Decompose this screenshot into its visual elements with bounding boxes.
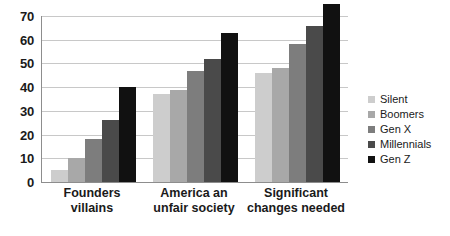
chart-legend: SilentBoomersGen XMillennialsGen Z	[368, 92, 448, 167]
x-axis-category-label-line: Significant	[246, 186, 346, 201]
legend-swatch-icon	[368, 156, 375, 163]
bar	[102, 120, 119, 182]
y-axis-tick-label: 40	[20, 81, 34, 94]
bar-group	[153, 16, 238, 182]
bar	[187, 71, 204, 182]
y-axis-tick-labels: 010203040506070	[0, 0, 40, 236]
bar	[306, 26, 323, 183]
legend-label: Boomers	[380, 109, 424, 120]
legend-label: Silent	[380, 94, 408, 105]
bar-group	[51, 16, 136, 182]
legend-item[interactable]: Boomers	[368, 107, 448, 122]
y-axis-tick-label: 20	[20, 128, 34, 141]
bar	[170, 90, 187, 182]
y-axis-tick-label: 30	[20, 104, 34, 117]
legend-swatch-icon	[368, 111, 375, 118]
x-axis-category-label-line: Founders villains	[42, 186, 142, 216]
plot-area	[41, 16, 348, 183]
legend-label: Gen X	[380, 124, 411, 135]
legend-swatch-icon	[368, 96, 375, 103]
x-axis-category-label-line: America an	[144, 186, 244, 201]
bar	[289, 44, 306, 182]
x-axis-category-label: America anunfair society	[144, 186, 244, 232]
bar	[272, 68, 289, 182]
bar	[119, 87, 136, 182]
bar-group	[255, 16, 340, 182]
bar	[68, 158, 85, 182]
legend-item[interactable]: Silent	[368, 92, 448, 107]
y-axis-tick-label: 0	[27, 176, 34, 189]
legend-label: Millennials	[380, 139, 431, 150]
legend-item[interactable]: Gen X	[368, 122, 448, 137]
legend-item[interactable]: Millennials	[368, 137, 448, 152]
x-axis-category-label: Founders villains	[42, 186, 142, 232]
bar	[153, 94, 170, 182]
bar	[255, 73, 272, 182]
bar	[204, 59, 221, 182]
y-axis-tick-label: 50	[20, 57, 34, 70]
bar-chart: 010203040506070 Founders villainsAmerica…	[0, 0, 450, 236]
legend-swatch-icon	[368, 126, 375, 133]
x-axis-category-label: Significantchanges needed	[246, 186, 346, 232]
bar	[85, 139, 102, 182]
bar	[323, 4, 340, 182]
x-axis-category-labels: Founders villainsAmerica anunfair societ…	[41, 186, 347, 232]
y-axis-tick-label: 10	[20, 152, 34, 165]
y-axis-tick-label: 60	[20, 33, 34, 46]
legend-swatch-icon	[368, 141, 375, 148]
bar-groups	[42, 16, 348, 182]
legend-item[interactable]: Gen Z	[368, 152, 448, 167]
y-axis-tick-label: 70	[20, 10, 34, 23]
x-axis-category-label-line: unfair society	[144, 201, 244, 216]
x-axis-category-label-line: changes needed	[246, 201, 346, 216]
legend-label: Gen Z	[380, 154, 411, 165]
bar	[51, 170, 68, 182]
bar	[221, 33, 238, 182]
